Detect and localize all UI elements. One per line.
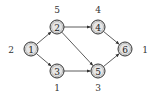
node-weight-4: 4 [95, 5, 101, 15]
node-weight-3: 1 [54, 83, 60, 93]
node-label: 1 [28, 45, 34, 55]
directed-graph: 123456 251431 [0, 0, 155, 97]
node-2: 2 [50, 20, 64, 34]
node-label: 3 [54, 67, 60, 77]
node-label: 4 [95, 23, 101, 33]
node-weight-6: 1 [142, 45, 148, 55]
edge-4-to-6 [103, 31, 119, 44]
node-3: 3 [50, 64, 64, 78]
node-label: 5 [95, 67, 101, 77]
node-5: 5 [91, 64, 105, 78]
node-1: 1 [24, 42, 38, 56]
edges-layer [36, 27, 119, 71]
node-4: 4 [91, 20, 105, 34]
node-weight-5: 3 [95, 83, 101, 93]
graph-canvas: 123456 251431 [0, 0, 155, 97]
edge-1-to-2 [36, 32, 51, 45]
edge-2-to-5 [62, 32, 93, 65]
node-weight-2: 5 [54, 5, 60, 15]
edge-5-to-6 [103, 54, 119, 67]
node-label: 6 [122, 45, 128, 55]
node-label: 2 [54, 23, 60, 33]
node-weight-1: 2 [8, 45, 14, 55]
node-6: 6 [118, 42, 132, 56]
edge-1-to-3 [36, 54, 51, 67]
